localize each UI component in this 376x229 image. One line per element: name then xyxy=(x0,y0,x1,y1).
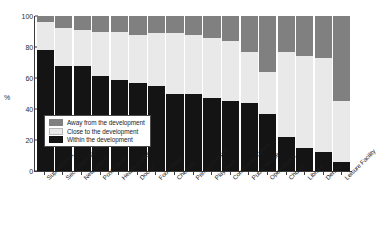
bar-segment-close xyxy=(74,30,91,66)
bar-segment-close xyxy=(185,35,202,94)
legend-label: Away from the development xyxy=(67,119,145,126)
bar-segment-close xyxy=(222,41,239,101)
bar-segment-close xyxy=(278,52,295,137)
legend-item: Close to the development xyxy=(49,128,145,135)
y-axis-title: % xyxy=(4,94,10,101)
y-axis-tick-label: 60 xyxy=(25,75,35,82)
x-axis-labels: SupermarketSecondary SchoolNewsagentPost… xyxy=(34,176,352,228)
bar-segment-away xyxy=(296,16,313,56)
bar-column[interactable] xyxy=(111,16,128,171)
bar-column[interactable] xyxy=(74,16,91,171)
bar-segment-close xyxy=(259,72,276,114)
bar-segment-close xyxy=(37,22,54,50)
x-axis-tick-mark xyxy=(286,172,287,175)
bar-segment-away xyxy=(259,16,276,72)
bar-segment-away xyxy=(166,16,183,33)
bar-segment-close xyxy=(55,28,72,65)
bar-segment-close xyxy=(296,56,313,147)
y-axis-tick: 100 xyxy=(22,13,35,20)
bar-segment-close xyxy=(111,32,128,80)
y-axis-tick: 20 xyxy=(25,137,35,144)
y-axis-tick-label: 80 xyxy=(25,44,35,51)
bar-column[interactable] xyxy=(333,16,350,171)
bar-segment-within xyxy=(37,50,54,171)
bar-column[interactable] xyxy=(241,16,258,171)
y-axis-tick-label: 100 xyxy=(22,13,35,20)
bar-column[interactable] xyxy=(278,16,295,171)
bar-segment-away xyxy=(129,16,146,35)
bar-segment-close xyxy=(148,33,165,86)
x-axis-tick-mark xyxy=(155,172,156,175)
legend-swatch-within-icon xyxy=(49,136,63,143)
x-axis-tick-mark xyxy=(248,172,249,175)
bar-segment-away xyxy=(203,16,220,38)
y-axis-tick: 60 xyxy=(25,75,35,82)
legend-label: Close to the development xyxy=(67,128,138,135)
bar-segment-away xyxy=(241,16,258,52)
bar-segment-away xyxy=(148,16,165,33)
legend-swatch-away-icon xyxy=(49,119,63,126)
bar-segment-close xyxy=(129,35,146,83)
chart-legend: Away from the development Close to the d… xyxy=(44,115,151,147)
bar-segment-close xyxy=(166,33,183,93)
bar-column[interactable] xyxy=(55,16,72,171)
x-axis-tick-mark xyxy=(304,172,305,175)
bar-segment-within xyxy=(185,94,202,172)
x-axis-tick-mark xyxy=(62,172,63,175)
y-axis-tick-label: 20 xyxy=(25,137,35,144)
bar-series-group xyxy=(35,16,352,171)
bar-segment-away xyxy=(74,16,91,30)
bar-segment-away xyxy=(315,16,332,58)
bar-column[interactable] xyxy=(315,16,332,171)
plot-area: 020406080100 xyxy=(34,16,352,172)
x-axis-tick-mark xyxy=(100,172,101,175)
bar-segment-close xyxy=(241,52,258,103)
legend-swatch-close-icon xyxy=(49,128,63,135)
bar-segment-away xyxy=(92,16,109,32)
y-axis-tick: 80 xyxy=(25,44,35,51)
bar-segment-away xyxy=(185,16,202,35)
y-axis-tick: 40 xyxy=(25,106,35,113)
bar-column[interactable] xyxy=(37,16,54,171)
y-axis-tick-label: 40 xyxy=(25,106,35,113)
bar-segment-away xyxy=(333,16,350,101)
bar-segment-away xyxy=(55,16,72,28)
bar-segment-away xyxy=(222,16,239,41)
bar-column[interactable] xyxy=(148,16,165,171)
bar-column[interactable] xyxy=(203,16,220,171)
bar-column[interactable] xyxy=(166,16,183,171)
x-axis-tick-mark xyxy=(341,172,342,175)
bar-column[interactable] xyxy=(129,16,146,171)
bar-segment-close xyxy=(315,58,332,153)
x-axis-tick-mark xyxy=(211,172,212,175)
legend-item: Away from the development xyxy=(49,119,145,126)
bar-segment-close xyxy=(92,32,109,77)
x-axis-tick-mark xyxy=(118,172,119,175)
bar-segment-close xyxy=(333,101,350,161)
bar-segment-close xyxy=(203,38,220,98)
x-axis-tick-mark xyxy=(193,172,194,175)
bar-segment-away xyxy=(111,16,128,32)
bar-segment-away xyxy=(278,16,295,52)
bar-column[interactable] xyxy=(185,16,202,171)
bar-column[interactable] xyxy=(296,16,313,171)
legend-item: Within the development xyxy=(49,136,145,143)
legend-label: Within the development xyxy=(67,136,133,143)
